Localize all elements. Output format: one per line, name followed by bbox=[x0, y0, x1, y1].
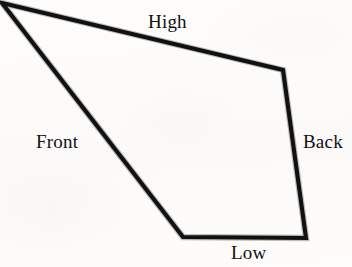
quadrilateral-outline bbox=[2, 3, 306, 238]
edge-label-front: Front bbox=[36, 132, 78, 151]
edge-label-high: High bbox=[148, 12, 187, 31]
edge-label-back: Back bbox=[303, 132, 343, 151]
figure-canvas: High Front Back Low bbox=[0, 0, 352, 267]
edge-label-low: Low bbox=[231, 243, 266, 262]
